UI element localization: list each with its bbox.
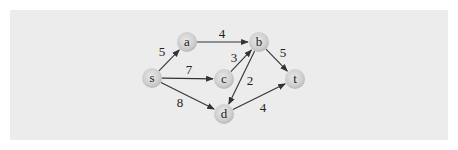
node-label: t	[293, 71, 297, 86]
node-label: c	[221, 71, 227, 86]
edge-weight-a-b: 4	[219, 26, 226, 41]
node-label: b	[256, 34, 263, 49]
edge-s-c	[162, 78, 213, 79]
edge-weight-s-c: 7	[186, 62, 193, 77]
node-s: s	[142, 68, 162, 88]
graph-canvas: 54732854 sabcdt	[0, 0, 458, 150]
edge-weight-b-t: 5	[280, 45, 287, 60]
edge-weight-s-a: 5	[159, 44, 166, 59]
node-a: a	[177, 32, 197, 52]
node-d: d	[214, 104, 234, 124]
node-c: c	[214, 69, 234, 89]
node-label: a	[184, 34, 190, 49]
edge-weight-c-b: 3	[231, 50, 238, 65]
node-b: b	[249, 32, 269, 52]
edge-weight-b-d: 2	[247, 73, 254, 88]
node-label: s	[149, 70, 154, 85]
node-label: d	[221, 106, 228, 121]
edge-weight-d-t: 4	[260, 100, 267, 115]
node-t: t	[285, 69, 305, 89]
edge-s-d	[161, 82, 214, 109]
edge-weight-s-d: 8	[177, 95, 184, 110]
